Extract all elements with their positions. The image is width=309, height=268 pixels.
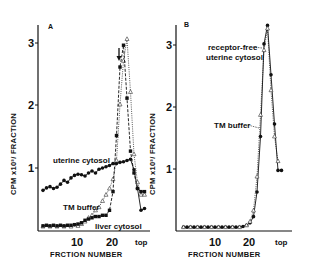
data-point — [76, 222, 79, 225]
data-point — [280, 169, 284, 173]
panel-a-plot — [41, 37, 147, 228]
data-point — [48, 224, 51, 227]
data-point — [143, 190, 146, 193]
figure: A 3 2 1 10 20 top FRCTION NUMBER CPM x10… — [0, 0, 309, 268]
data-point — [90, 216, 93, 219]
data-point — [108, 186, 112, 190]
data-point — [269, 73, 273, 77]
data-point — [62, 224, 65, 227]
data-point — [143, 207, 147, 211]
data-point — [111, 190, 114, 193]
data-point — [59, 182, 63, 186]
data-point — [55, 224, 58, 227]
data-point — [41, 189, 45, 193]
panel-b-ytick-2: 2 — [166, 101, 172, 113]
panel-b-letter: B — [184, 21, 189, 28]
data-point — [45, 224, 48, 227]
data-point — [125, 37, 129, 41]
data-point — [132, 152, 136, 156]
label-tm-buffer-b: TM buffer — [214, 121, 250, 130]
data-point — [87, 217, 90, 220]
panel-a-ytick-1: 1 — [28, 162, 34, 174]
data-point — [90, 169, 94, 173]
data-point — [139, 209, 143, 213]
data-point — [80, 173, 84, 177]
data-point — [132, 168, 136, 172]
data-point — [48, 185, 52, 189]
data-point — [97, 167, 101, 171]
panel-b-ylabel: CPM x10³/ FRACTION — [148, 113, 157, 195]
label-receptor-free-line2: uterine cytosol — [206, 53, 263, 62]
data-point — [122, 160, 126, 164]
data-point — [118, 161, 122, 165]
panel-a-xtick-top: top — [135, 238, 148, 247]
data-point — [41, 224, 44, 227]
series-liver-cytosol — [41, 44, 146, 228]
data-point — [69, 176, 73, 180]
data-point — [266, 26, 270, 30]
data-point — [101, 214, 104, 217]
data-point — [101, 199, 105, 203]
panel-b-xtick-20: 20 — [243, 236, 255, 248]
panel-b-xlabel: FRCTION NUMBER — [188, 250, 261, 259]
data-point — [101, 166, 105, 170]
data-point — [136, 187, 139, 190]
data-point — [273, 134, 277, 138]
data-point — [276, 169, 280, 173]
panel-a-letter: A — [48, 23, 53, 30]
panel-a-xtick-10: 10 — [71, 236, 83, 248]
data-point — [118, 102, 122, 106]
data-point — [73, 223, 76, 226]
series-TM-buffer — [41, 37, 147, 228]
panel-a-ytick-3: 3 — [28, 37, 34, 49]
data-point — [139, 190, 142, 193]
data-point — [259, 113, 263, 117]
data-point — [108, 209, 111, 212]
panel-a-xlabel: FRCTION NUMBER — [50, 250, 123, 259]
data-point — [104, 193, 108, 197]
data-point — [52, 187, 56, 191]
data-point — [111, 177, 115, 181]
data-point — [62, 179, 66, 183]
data-point — [83, 174, 87, 178]
data-point — [115, 134, 118, 137]
panel-b-xtick-10: 10 — [209, 236, 221, 248]
data-point — [276, 159, 280, 163]
data-point — [129, 90, 133, 94]
panel-b: B 3 2 1 10 20 top FRCTION NUMBER CPM x10… — [148, 21, 292, 259]
panel-b-xtick-top: top — [275, 238, 288, 247]
data-point — [94, 171, 98, 175]
arrow-down-icon — [117, 48, 122, 61]
label-liver-cytosol: liver cytosol — [95, 222, 142, 231]
panel-a: A 3 2 1 10 20 top FRCTION NUMBER CPM x10… — [9, 23, 150, 259]
panel-a-xtick-20: 20 — [106, 236, 118, 248]
panel-a-ylabel: CPM x10³/ FRACTION — [9, 113, 18, 195]
data-point — [104, 165, 108, 169]
data-point — [66, 180, 70, 184]
data-point — [66, 224, 69, 227]
panel-a-ytick-2: 2 — [28, 99, 34, 111]
data-point — [73, 174, 77, 178]
data-point — [80, 221, 83, 224]
label-receptor-free-line1: receptor-free — [208, 43, 258, 52]
data-point — [118, 65, 121, 68]
data-point — [122, 44, 125, 47]
data-point — [52, 224, 55, 227]
data-point — [132, 171, 135, 174]
data-point — [97, 215, 100, 218]
data-point — [55, 185, 59, 189]
data-point — [125, 96, 128, 99]
label-tm-buffer-a: TM buffer — [63, 203, 99, 212]
data-point — [94, 215, 97, 218]
data-point — [262, 48, 266, 52]
label-uterine-cytosol: uterine cytosol — [53, 156, 110, 165]
panel-b-ytick-1: 1 — [166, 163, 172, 175]
data-point — [76, 172, 80, 176]
data-point — [125, 159, 129, 163]
data-point — [83, 219, 86, 222]
data-point — [59, 224, 62, 227]
data-point — [69, 224, 72, 227]
panel-b-ytick-3: 3 — [166, 39, 172, 51]
data-point — [45, 186, 49, 190]
data-point — [129, 149, 132, 152]
